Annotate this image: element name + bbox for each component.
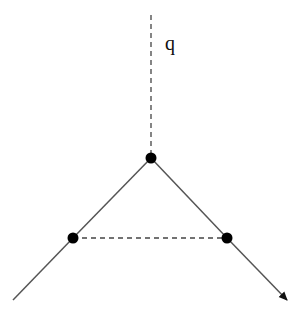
line-top-to-left bbox=[73, 158, 151, 238]
vertex-top bbox=[146, 153, 157, 164]
line-top-to-right bbox=[151, 158, 227, 238]
vertex-right bbox=[222, 233, 233, 244]
line-right-outgoing-arrow bbox=[227, 238, 287, 300]
line-left-outgoing bbox=[13, 238, 73, 300]
diagram-canvas: q bbox=[0, 0, 300, 317]
momentum-label-q: q bbox=[165, 32, 175, 55]
vertex-left bbox=[68, 233, 79, 244]
